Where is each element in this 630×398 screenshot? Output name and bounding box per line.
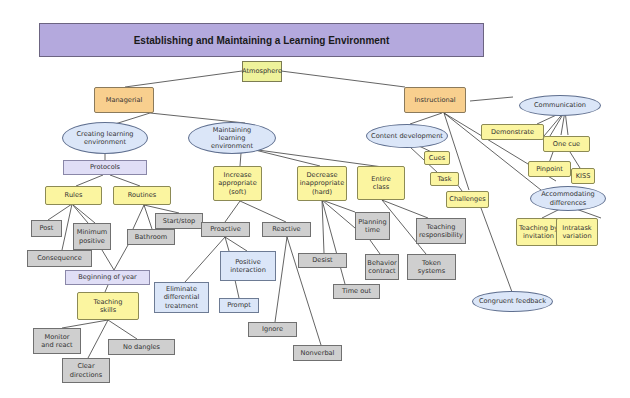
node-cues: Cues bbox=[424, 151, 450, 165]
node-rules: Rules bbox=[45, 186, 102, 205]
node-demonstrate: Demonstrate bbox=[481, 124, 544, 140]
node-eliminate-differential-treatment: Eliminate differential treatment bbox=[154, 282, 209, 313]
node-no-dangles: No dangles bbox=[108, 339, 175, 355]
node-desist: Desist bbox=[298, 253, 347, 268]
node-clear-directions: Clear directions bbox=[62, 358, 110, 383]
node-increase-appropriate: Increase appropriate (soft) bbox=[213, 166, 262, 201]
node-prompt: Prompt bbox=[219, 298, 259, 313]
node-creating-learning-environment: Creating learning environment bbox=[62, 122, 148, 154]
node-start-stop: Start/stop bbox=[155, 213, 203, 229]
node-congruent-feedback: Congruent feedback bbox=[472, 291, 553, 312]
node-communication: Communication bbox=[519, 95, 601, 116]
node-time-out: Time out bbox=[333, 284, 380, 299]
diagram-title: Establishing and Maintaining a Learning … bbox=[134, 35, 390, 46]
node-proactive: Proactive bbox=[201, 222, 250, 237]
node-teaching-responsibility: Teaching responsibility bbox=[416, 218, 466, 244]
node-accommodating-differences: Accommodating differences bbox=[530, 186, 606, 211]
node-token-systems: Token systems bbox=[407, 254, 456, 280]
node-protocols: Protocols bbox=[63, 160, 147, 175]
node-maintaining-learning-environment: Maintaining learning environment bbox=[188, 122, 276, 154]
node-content-development: Content development bbox=[366, 124, 448, 148]
node-monitor-and-react: Monitor and react bbox=[33, 328, 81, 354]
node-one-cue: One cue bbox=[543, 136, 590, 152]
concept-map: Establishing and Maintaining a Learning … bbox=[0, 0, 630, 398]
node-bathroom: Bathroom bbox=[127, 229, 175, 245]
node-teaching-skills: Teaching skills bbox=[77, 292, 139, 320]
node-atmosphere: Atmosphere bbox=[242, 61, 282, 82]
node-teaching-by-invitation: Teaching by invitation bbox=[516, 218, 561, 246]
node-behavior-contract: Behavior contract bbox=[365, 254, 399, 280]
diagram-title-banner: Establishing and Maintaining a Learning … bbox=[39, 23, 484, 57]
node-kiss: KISS bbox=[571, 168, 595, 184]
node-challenges: Challenges bbox=[446, 191, 489, 208]
node-task: Task bbox=[430, 172, 459, 186]
node-beginning-of-year: Beginning of year bbox=[65, 270, 150, 285]
node-pinpoint: Pinpoint bbox=[528, 161, 571, 177]
node-ignore: Ignore bbox=[248, 322, 297, 337]
node-entire-class: Entire class bbox=[357, 166, 405, 200]
node-managerial: Managerial bbox=[94, 87, 154, 113]
node-consequence: Consequence bbox=[27, 250, 92, 267]
node-post: Post bbox=[31, 220, 62, 237]
node-reactive: Reactive bbox=[262, 222, 311, 237]
node-intratask-variation: Intratask variation bbox=[556, 218, 598, 246]
node-positive-interaction: Positive interaction bbox=[220, 251, 276, 281]
node-routines: Routines bbox=[113, 186, 171, 205]
node-nonverbal: Nonverbal bbox=[293, 345, 342, 361]
node-planning-time: Planning time bbox=[355, 212, 390, 240]
node-decrease-inappropriate: Decrease inappropriate (hard) bbox=[297, 166, 347, 201]
node-minimum-positive: Minimum positive bbox=[73, 223, 111, 250]
node-instructional: Instructional bbox=[404, 87, 466, 113]
